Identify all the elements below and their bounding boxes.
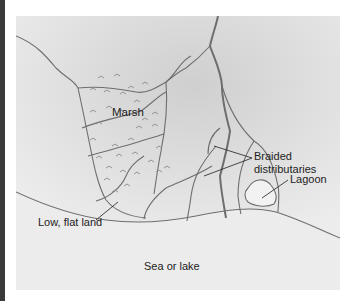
label-lagoon: Lagoon <box>290 173 327 186</box>
marsh-tufts <box>90 74 170 192</box>
lagoon-shape <box>245 180 276 206</box>
label-sea-or-lake: Sea or lake <box>144 260 200 273</box>
sea-area <box>16 192 340 290</box>
page-edge-bar <box>0 0 5 301</box>
distributary-left <box>187 146 216 221</box>
left-branch <box>166 46 210 82</box>
upper-left-coast <box>16 36 146 218</box>
label-marsh: Marsh <box>112 106 144 119</box>
delta-diagram-panel: Marsh Braided distributaries Lagoon Low,… <box>16 16 340 290</box>
marsh-inner-line-2 <box>88 134 164 156</box>
main-channel <box>210 16 230 218</box>
label-braided: Braided <box>254 150 292 163</box>
marsh-top-line <box>78 56 191 92</box>
label-low-flat-land: Low, flat land <box>38 216 102 229</box>
distributary-loop <box>208 128 220 154</box>
braided-leader-1 <box>214 146 252 158</box>
